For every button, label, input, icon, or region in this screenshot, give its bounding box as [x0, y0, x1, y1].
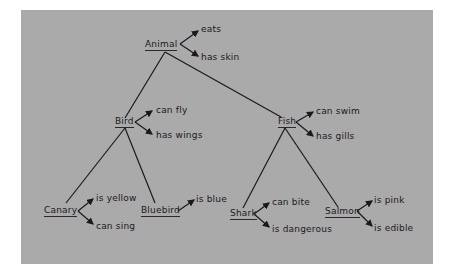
prop-bird-has-wings: has wings: [156, 130, 203, 140]
prop-salmon-is-edible: is edible: [374, 223, 413, 233]
arrow-bird-haswings: [135, 122, 152, 134]
prop-animal-eats: eats: [201, 24, 221, 34]
arrow-canary-isyellow: [78, 199, 93, 211]
prop-bird-can-fly: can fly: [156, 105, 187, 115]
arrow-canary-cansing: [78, 211, 93, 224]
arrow-fish-hasgills: [296, 122, 313, 136]
arrow-bluebird-isblue: [178, 200, 194, 211]
prop-bluebird-is-blue: is blue: [196, 194, 227, 204]
edge-bird-canary: [66, 128, 125, 203]
arrow-animal-eats: [180, 31, 198, 44]
edge-bird-bluebird: [125, 128, 155, 203]
prop-shark-is-dangerous: is dangerous: [272, 224, 332, 234]
prop-shark-can-bite: can bite: [272, 197, 310, 207]
arrow-fish-canswim: [296, 112, 313, 122]
prop-fish-can-swim: can swim: [316, 106, 360, 116]
prop-animal-has-skin: has skin: [201, 52, 239, 62]
edge-fish-shark: [243, 128, 285, 208]
node-bluebird: Bluebird: [141, 205, 180, 217]
node-canary: Canary: [44, 205, 77, 217]
node-animal: Animal: [145, 39, 177, 51]
node-shark: Shark: [230, 208, 257, 220]
node-salmon: Salmon: [325, 206, 360, 218]
prop-canary-can-sing: can sing: [96, 221, 135, 231]
prop-canary-is-yellow: is yellow: [96, 193, 137, 203]
prop-fish-has-gills: has gills: [316, 131, 354, 141]
arrow-bird-canfly: [135, 111, 152, 122]
prop-salmon-is-pink: is pink: [374, 195, 405, 205]
arrow-animal-hasskin: [180, 44, 198, 56]
node-bird: Bird: [115, 116, 134, 128]
node-fish: Fish: [278, 116, 296, 128]
